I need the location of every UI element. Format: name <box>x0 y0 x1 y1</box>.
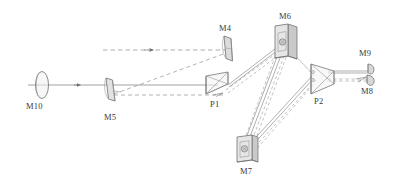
component-m5[interactable] <box>105 78 121 101</box>
component-m9[interactable] <box>368 64 374 74</box>
optical-ray-diagram: M10 M5 M4 P1 M6 M7 P2 M9 M8 <box>0 0 393 188</box>
label-m6: M6 <box>279 11 291 21</box>
component-p2[interactable] <box>311 64 334 94</box>
component-m10[interactable] <box>36 72 49 99</box>
label-p2: P2 <box>314 96 323 106</box>
label-m8: M8 <box>361 86 373 96</box>
diagram-canvas <box>0 0 393 188</box>
label-m5: M5 <box>104 112 116 122</box>
component-m4[interactable] <box>222 36 232 61</box>
label-m7: M7 <box>240 166 252 176</box>
component-p1[interactable] <box>206 72 228 94</box>
label-m9: M9 <box>359 48 371 58</box>
label-p1: P1 <box>210 99 219 109</box>
component-m8[interactable] <box>367 75 374 85</box>
component-m6[interactable] <box>275 24 297 59</box>
label-m10: M10 <box>26 101 43 111</box>
component-m7[interactable] <box>237 135 258 162</box>
label-m4: M4 <box>219 23 231 33</box>
